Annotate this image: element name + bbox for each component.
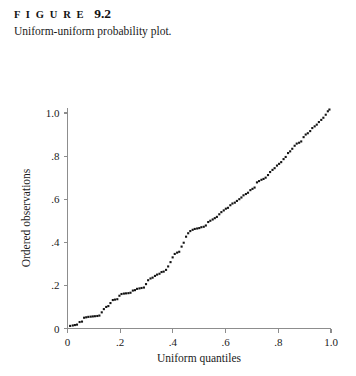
data-point xyxy=(198,227,200,229)
data-point xyxy=(154,275,156,277)
data-point xyxy=(287,152,289,154)
data-point xyxy=(229,204,231,206)
data-point xyxy=(112,299,114,301)
data-point xyxy=(242,194,244,196)
figure-root: F I G U R E 9.2 Uniform-uniform probabil… xyxy=(0,0,356,376)
data-point xyxy=(271,169,273,171)
data-point xyxy=(96,315,98,317)
data-point xyxy=(83,317,85,319)
data-point xyxy=(172,256,174,258)
data-point xyxy=(325,114,327,116)
data-point xyxy=(105,306,107,308)
data-point xyxy=(309,130,311,132)
data-point xyxy=(300,140,302,142)
x-tick-label: .4 xyxy=(169,336,178,348)
data-point xyxy=(120,293,122,295)
data-point xyxy=(283,158,285,160)
data-point xyxy=(116,298,118,300)
y-tick-label: .6 xyxy=(51,193,60,205)
data-point xyxy=(109,302,111,304)
data-point xyxy=(167,265,169,267)
data-point xyxy=(79,321,81,323)
y-axis-title: Ordered observations xyxy=(20,168,32,267)
data-point xyxy=(94,315,96,317)
data-point xyxy=(216,216,218,218)
y-tick-label: 1.0 xyxy=(46,107,60,119)
data-point xyxy=(231,202,233,204)
data-point xyxy=(247,192,249,194)
x-tick-label: .2 xyxy=(116,336,124,348)
data-point xyxy=(129,292,131,294)
data-point xyxy=(143,287,145,289)
data-point xyxy=(276,165,278,167)
data-point xyxy=(156,274,158,276)
data-point xyxy=(149,277,151,279)
data-point xyxy=(176,252,178,254)
data-point xyxy=(132,290,134,292)
data-point xyxy=(307,132,309,134)
data-point xyxy=(205,224,207,226)
data-point xyxy=(318,121,320,123)
data-point xyxy=(214,217,216,219)
data-point xyxy=(322,117,324,119)
data-point xyxy=(138,287,140,289)
y-tick-label: .4 xyxy=(51,236,60,248)
data-point xyxy=(227,207,229,209)
data-point xyxy=(194,228,196,230)
data-point xyxy=(101,311,103,313)
data-point xyxy=(185,236,187,238)
x-tick-label: .8 xyxy=(274,336,283,348)
data-point xyxy=(267,174,269,176)
x-axis-title: Uniform quantiles xyxy=(157,352,242,365)
data-point xyxy=(251,188,253,190)
axes-group xyxy=(67,108,331,329)
data-point xyxy=(158,273,160,275)
data-point xyxy=(87,316,89,318)
data-point xyxy=(187,232,189,234)
data-point xyxy=(107,305,109,307)
data-point xyxy=(240,196,242,198)
data-point xyxy=(134,289,136,291)
data-points-group xyxy=(69,109,330,327)
data-point xyxy=(147,279,149,281)
data-point xyxy=(72,324,74,326)
data-point xyxy=(218,213,220,215)
data-point xyxy=(262,178,264,180)
data-point xyxy=(81,321,83,323)
data-point xyxy=(220,211,222,213)
data-point xyxy=(234,202,236,204)
data-point xyxy=(192,229,194,231)
data-point xyxy=(145,283,147,285)
data-point xyxy=(280,161,282,163)
y-axis-ticks: 0.2.4.6.81.0 xyxy=(46,107,68,335)
data-point xyxy=(328,109,330,111)
data-point xyxy=(183,242,185,244)
data-point xyxy=(278,163,280,165)
data-point xyxy=(165,269,167,271)
data-point xyxy=(76,324,78,326)
data-point xyxy=(174,253,176,255)
y-tick-label: 0 xyxy=(54,323,60,335)
data-point xyxy=(225,208,227,210)
data-point xyxy=(223,209,225,211)
x-tick-label: 0 xyxy=(65,336,71,348)
data-point xyxy=(303,136,305,138)
data-point xyxy=(265,177,267,179)
data-point xyxy=(316,124,318,126)
data-point xyxy=(85,316,87,318)
y-tick-label: .8 xyxy=(51,150,60,162)
data-point xyxy=(103,308,105,310)
data-point xyxy=(260,179,262,181)
data-point xyxy=(320,119,322,121)
data-point xyxy=(249,189,251,191)
data-point xyxy=(169,261,171,263)
data-point xyxy=(136,288,138,290)
data-point xyxy=(258,180,260,182)
data-point xyxy=(203,226,205,228)
data-point xyxy=(274,167,276,169)
data-point xyxy=(245,193,247,195)
data-point xyxy=(163,271,165,273)
data-point xyxy=(296,143,298,145)
x-tick-label: 1.0 xyxy=(324,336,338,348)
data-point xyxy=(118,295,120,297)
